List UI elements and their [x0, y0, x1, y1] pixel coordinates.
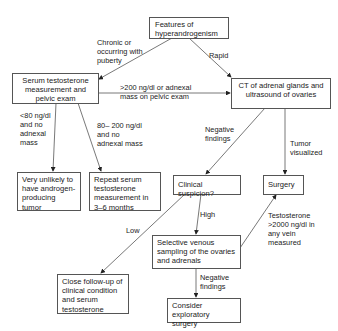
edge-label-testosterone-2000: Testosterone >2000 ng/dl in any vein mea…	[268, 211, 315, 247]
close-followup-node: Close follow-up of clinical condition an…	[57, 274, 129, 314]
edge-label-rapid: Rapid	[209, 51, 228, 60]
connector-arrows	[0, 0, 338, 331]
serum-testosterone-node: Serum testosterone measurement and pelvi…	[12, 73, 99, 104]
surgery-node: Surgery	[263, 175, 304, 195]
edge-label-chronic: Chronic or occurring with puberty	[97, 38, 143, 65]
ct-adrenal-node: CT of adrenal glands and ultrasound of o…	[231, 78, 331, 109]
edge-label-80-200: 80– 200 ng/dl and no adnexal mass	[97, 121, 143, 148]
edge-label-high: High	[200, 210, 215, 219]
edge-label-tumor-visualized: Tumor visualized	[290, 139, 322, 157]
edge-label-negative-findings-ct: Negative findings	[205, 125, 234, 143]
exploratory-surgery-node: Consider exploratory surgery	[167, 298, 241, 323]
clinical-suspicion-node: Clinical suspicion?	[173, 175, 241, 195]
edge-label-low: Low	[126, 226, 140, 235]
features-node: Features of hyperandrogenism	[149, 17, 229, 39]
selective-venous-node: Selective venous sampling of the ovaries…	[152, 235, 241, 269]
repeat-serum-node: Repeat serum testosterone measurement in…	[89, 172, 161, 211]
edge-label-over200: >200 ng/dl or adnexal mass on pelvic exa…	[120, 83, 191, 101]
edge-label-negative-findings-venous: Negative findings	[200, 273, 229, 291]
edge-label-under80: <80 ng/dl and no adnexal mass	[20, 111, 51, 147]
very-unlikely-node: Very unlikely to have androgen-producing…	[17, 172, 81, 211]
